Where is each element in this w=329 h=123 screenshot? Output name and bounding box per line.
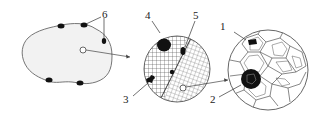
label-4: 4 (145, 9, 151, 21)
surface-inclusion (102, 38, 106, 44)
leader-line-3 (133, 83, 148, 96)
arrowhead-icon (224, 78, 228, 82)
surface-inclusion (46, 78, 53, 83)
meso-view-panel: 4 5 3 (123, 9, 220, 110)
small-inclusion (170, 70, 174, 74)
label-2: 2 (210, 93, 216, 105)
macro-section-panel: 6 (22, 8, 112, 86)
diagram-canvas: 6 4 5 3 (0, 0, 329, 123)
micro-view-panel: 1 2 (210, 20, 308, 110)
label-6: 6 (102, 8, 108, 20)
label-5: 5 (193, 9, 199, 21)
inclusion-4 (157, 39, 171, 52)
surface-inclusion (81, 23, 88, 28)
label-3: 3 (123, 93, 129, 105)
leader-line-4 (152, 21, 160, 33)
arrowhead-icon (126, 55, 130, 59)
leader-line-1 (234, 32, 246, 40)
section-outline (22, 24, 112, 84)
particle-1 (248, 39, 257, 45)
surface-inclusion (77, 81, 84, 86)
inclusion-5 (181, 47, 186, 55)
particle-2 (241, 69, 261, 89)
white-spot (180, 85, 186, 91)
label-1: 1 (220, 20, 226, 32)
surface-inclusion (58, 24, 65, 29)
leader-line-6a (86, 17, 101, 24)
magnified-spot-marker (80, 47, 86, 53)
